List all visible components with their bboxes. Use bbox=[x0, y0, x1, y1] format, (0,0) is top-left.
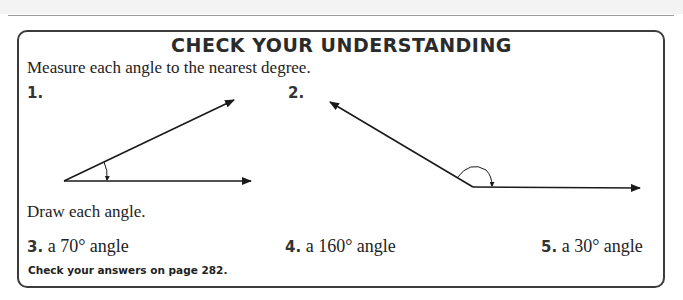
angle-2-right-ray bbox=[473, 187, 640, 188]
angle-1-arc-icon bbox=[104, 162, 107, 180]
angle-2-left-ray bbox=[330, 102, 473, 187]
draw-item-3: 3. a 70° angle bbox=[27, 236, 129, 257]
angle-2-figure bbox=[330, 102, 640, 188]
draw-item-5: 5. a 30° angle bbox=[541, 236, 643, 257]
answer-reference-note: Check your answers on page 282. bbox=[28, 264, 227, 276]
draw-instruction: Draw each angle. bbox=[27, 202, 145, 222]
draw-item-4: 4. a 160° angle bbox=[285, 236, 396, 257]
angle-2-arc-icon bbox=[457, 166, 492, 186]
angle-1-upper-ray bbox=[64, 100, 234, 181]
angle-1-figure bbox=[64, 100, 251, 181]
